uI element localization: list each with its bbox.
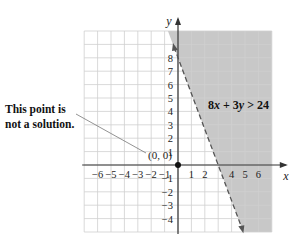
origin-label: (0, 0) [148, 149, 172, 162]
x-tick-label: −3 [132, 169, 143, 180]
x-tick-label: −2 [146, 169, 157, 180]
annotation-text: This point is not a solution. [5, 102, 74, 132]
y-tick-label: 2 [168, 133, 173, 144]
y-tick-label: −4 [162, 214, 174, 225]
x-axis-label: x [282, 169, 289, 183]
x-tick-label: −4 [119, 169, 131, 180]
x-tick-label: −6 [92, 169, 103, 180]
y-tick-label: 3 [168, 120, 173, 131]
x-tick-label: 1 [189, 169, 194, 180]
origin-point [175, 162, 181, 168]
x-tick-label: 4 [229, 169, 235, 180]
y-tick-label: 7 [168, 66, 173, 77]
shaded-region [168, 31, 272, 232]
ineq-part: > 24 [244, 98, 269, 112]
y-tick-label: 4 [168, 106, 174, 117]
y-tick-label: 6 [168, 80, 173, 91]
y-tick-label: −3 [162, 200, 173, 211]
x-tick-label: 2 [202, 169, 207, 180]
y-axis-arrow-icon [175, 17, 181, 25]
y-tick-label: −2 [162, 187, 173, 198]
x-tick-label: 6 [256, 169, 261, 180]
x-tick-label: −5 [105, 169, 116, 180]
ineq-part: + 3 [220, 98, 239, 112]
y-tick-label: −1 [162, 173, 173, 184]
x-tick-label: 5 [242, 169, 247, 180]
y-tick-label: 8 [168, 53, 173, 64]
y-axis-label: y [165, 14, 172, 28]
x-axis-arrow-icon [280, 162, 288, 168]
y-tick-label: 5 [168, 93, 173, 104]
annotation-line-1: This point is [5, 102, 74, 117]
annotation-line-2: not a solution. [5, 117, 74, 132]
inequality-label: 8x + 3y > 24 [208, 98, 269, 113]
